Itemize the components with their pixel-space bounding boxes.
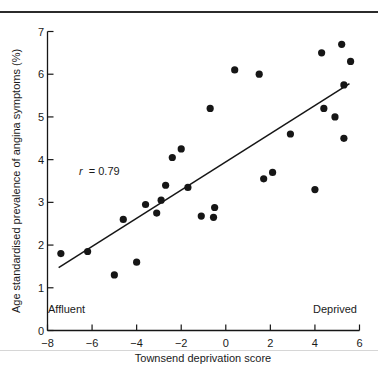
y-tick-label: 5 [38, 111, 44, 123]
data-point [338, 41, 345, 48]
data-point [260, 175, 267, 182]
data-point [158, 197, 165, 204]
data-point [331, 113, 338, 120]
data-point [318, 49, 325, 56]
data-point [340, 81, 347, 88]
data-point [57, 250, 64, 257]
data-point [287, 130, 294, 137]
y-tick-label: 2 [38, 239, 44, 251]
x-tick-label: −6 [86, 337, 99, 349]
y-tick-label: 7 [38, 26, 44, 38]
data-point [210, 214, 217, 221]
x-tick-label: 4 [312, 337, 318, 349]
x-tick-label: −2 [175, 337, 188, 349]
data-point [231, 66, 238, 73]
data-point [184, 184, 191, 191]
deprived-label: Deprived [313, 303, 357, 315]
y-tick-label: 4 [38, 154, 44, 166]
x-tick-label: −4 [130, 337, 143, 349]
data-point [133, 259, 140, 266]
x-axis-label: Townsend deprivation score [135, 352, 271, 364]
data-point [111, 271, 118, 278]
y-axis-label: Age standardised prevalence of angina sy… [10, 49, 22, 313]
x-tick-label: −8 [41, 337, 54, 349]
data-point [153, 209, 160, 216]
data-point [198, 212, 205, 219]
y-tick-label: 6 [38, 68, 44, 80]
affluent-label: Affluent [48, 303, 85, 315]
y-tick-label: 0 [38, 325, 44, 337]
plot-area: −8−6−4−2024601234567 [38, 26, 363, 350]
data-point [178, 145, 185, 152]
correlation-variable: r [79, 165, 84, 177]
scatter-chart: −8−6−4−2024601234567 Age standardised pr… [0, 0, 384, 383]
data-point [120, 216, 127, 223]
correlation-value: = 0.79 [89, 165, 120, 177]
bottom-rule [0, 350, 378, 351]
x-tick-label: 6 [356, 337, 362, 349]
data-point [84, 248, 91, 255]
y-tick-label: 1 [38, 282, 44, 294]
data-point [347, 58, 354, 65]
x-tick-label: 2 [267, 337, 273, 349]
data-point [320, 105, 327, 112]
figure-page: −8−6−4−2024601234567 Age standardised pr… [0, 0, 384, 383]
data-point [269, 169, 276, 176]
correlation-label: r = 0.79 [79, 165, 120, 177]
data-point [211, 204, 218, 211]
data-point [256, 71, 263, 78]
data-point [207, 105, 214, 112]
y-tick-label: 3 [38, 196, 44, 208]
x-tick-label: 0 [223, 337, 229, 349]
data-point [142, 201, 149, 208]
data-point [311, 186, 318, 193]
data-point [162, 182, 169, 189]
data-point [340, 135, 347, 142]
data-point [169, 154, 176, 161]
